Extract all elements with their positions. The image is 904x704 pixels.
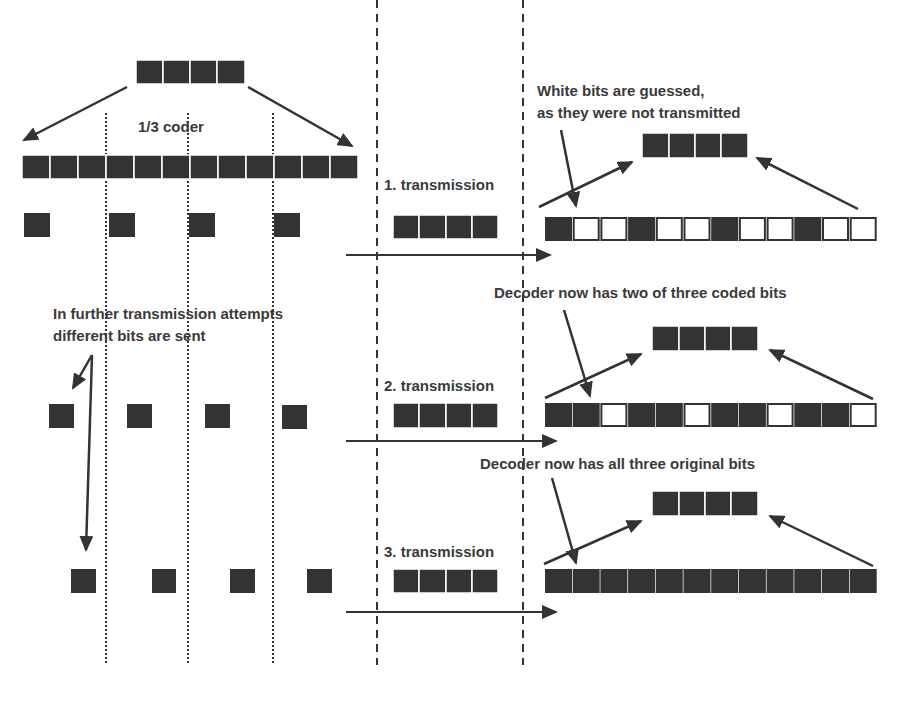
- guessed-bit: [574, 218, 599, 240]
- guessed-bit: [768, 218, 793, 240]
- guessed-bit: [740, 218, 765, 240]
- received-bit: [795, 570, 820, 592]
- input-bits-block: [136, 60, 245, 84]
- received-bit: [712, 218, 737, 240]
- tx1-label: 1. transmission: [384, 176, 494, 194]
- tx3-decoded-block: [652, 491, 758, 516]
- tx2-selected-bits: [49, 404, 307, 429]
- received-bit: [685, 570, 710, 592]
- tx1-selected-bits: [24, 213, 300, 237]
- received-bit: [629, 218, 654, 240]
- tx2-received-row: [546, 404, 876, 426]
- decoder-all-note: Decoder now has all three original bits: [480, 455, 755, 473]
- received-bit: [740, 404, 765, 426]
- guessed-bit: [685, 218, 710, 240]
- tx3-sent-block: [393, 569, 498, 593]
- guessed-bit: [685, 404, 710, 426]
- tx1-received-row: [546, 218, 876, 240]
- tx3-selected-bits: [71, 569, 332, 593]
- tx1-sent-block: [393, 215, 498, 239]
- guessed-bit: [823, 218, 848, 240]
- received-bit: [740, 570, 765, 592]
- received-bit: [629, 404, 654, 426]
- received-bit: [823, 570, 848, 592]
- received-bit: [823, 404, 848, 426]
- channel-boundaries: [377, 0, 523, 665]
- further-note-line1: In further transmission attempts: [53, 305, 283, 323]
- received-bit: [546, 404, 571, 426]
- received-bit: [574, 404, 599, 426]
- received-bit: [795, 218, 820, 240]
- received-bit: [712, 404, 737, 426]
- received-bit: [768, 570, 793, 592]
- tx1-decoded-block: [642, 133, 748, 158]
- received-bit: [657, 404, 682, 426]
- tx3-received-row: [546, 570, 876, 592]
- received-bit: [601, 570, 626, 592]
- tx2-sent-block: [393, 403, 498, 428]
- received-bit: [546, 218, 571, 240]
- guessed-bit: [851, 404, 876, 426]
- guessed-bit: [601, 218, 626, 240]
- tx2-decoded-block: [652, 326, 758, 351]
- received-bit: [712, 570, 737, 592]
- guessed-note-line2: as they were not transmitted: [537, 104, 740, 122]
- diagram-canvas: [0, 0, 904, 704]
- received-bit: [629, 570, 654, 592]
- received-bit: [546, 570, 571, 592]
- guessed-bit: [768, 404, 793, 426]
- further-arrows: [73, 355, 92, 550]
- received-bit: [574, 570, 599, 592]
- guessed-note-line1: White bits are guessed,: [537, 82, 705, 100]
- guessed-bit: [851, 218, 876, 240]
- coded-bits-row: [22, 155, 358, 179]
- received-bit: [657, 570, 682, 592]
- decoder-two-note: Decoder now has two of three coded bits: [494, 284, 787, 302]
- tx2-label: 2. transmission: [384, 377, 494, 395]
- guessed-bit: [657, 218, 682, 240]
- annotation-arrows: [552, 130, 590, 563]
- received-bit: [795, 404, 820, 426]
- coder-label: 1/3 coder: [138, 118, 204, 136]
- tx3-label: 3. transmission: [384, 543, 494, 561]
- received-bit: [851, 570, 876, 592]
- further-note-line2: different bits are sent: [53, 327, 206, 345]
- guessed-bit: [601, 404, 626, 426]
